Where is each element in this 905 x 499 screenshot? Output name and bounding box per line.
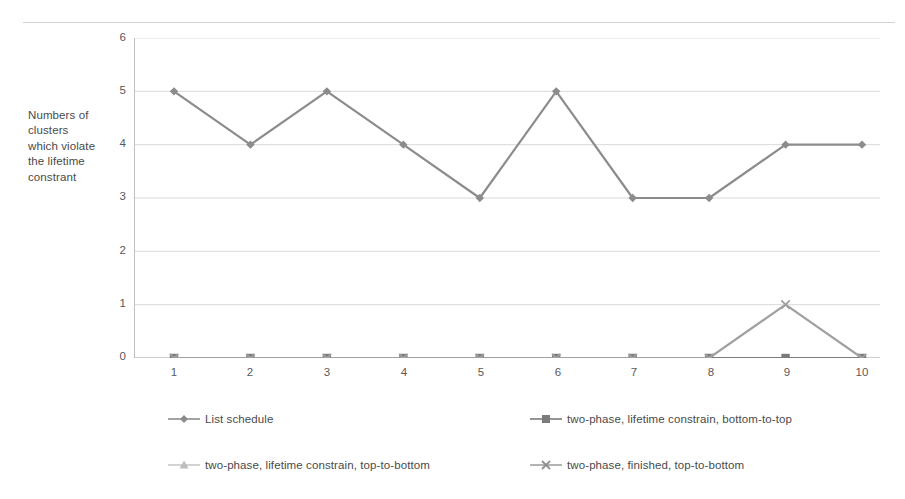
figure-top-rule: [23, 22, 895, 23]
legend-label-two-phase-finished-top-to-bottom: two-phase, finished, top-to-bottom: [567, 459, 744, 471]
data-point-marker: [858, 140, 866, 148]
square-marker-icon: [530, 412, 562, 426]
diamond-marker-icon: [168, 412, 200, 426]
x-tick-label-5: 5: [464, 366, 498, 378]
y-tick-label-6: 6: [100, 31, 126, 43]
chart-legend: List schedule two-phase, lifetime constr…: [0, 406, 905, 496]
legend-item-list-schedule[interactable]: List schedule: [168, 412, 273, 426]
y-tick-label-2: 2: [100, 244, 126, 256]
legend-label-two-phase-lifetime-top-to-bottom: two-phase, lifetime constrain, top-to-bo…: [205, 459, 430, 471]
triangle-marker-icon: [168, 458, 200, 472]
y-tick-label-4: 4: [100, 137, 126, 149]
x-tick-label-1: 1: [157, 366, 191, 378]
y-axis-label-line-1: Numbers of: [28, 108, 123, 123]
series-4: [170, 300, 866, 358]
x-tick-label-4: 4: [387, 366, 421, 378]
data-point-marker: [781, 354, 789, 358]
legend-label-two-phase-lifetime-bottom-to-top: two-phase, lifetime constrain, bottom-to…: [567, 413, 792, 425]
x-tick-label-8: 8: [694, 366, 728, 378]
y-tick-label-1: 1: [100, 297, 126, 309]
cross-marker-icon: [530, 458, 562, 472]
x-tick-label-2: 2: [233, 366, 267, 378]
y-tick-label-0: 0: [100, 350, 126, 362]
x-tick-label-6: 6: [541, 366, 575, 378]
y-tick-label-3: 3: [100, 190, 126, 202]
legend-item-two-phase-lifetime-bottom-to-top[interactable]: two-phase, lifetime constrain, bottom-to…: [530, 412, 792, 426]
plot-svg: [134, 38, 880, 358]
y-tick-label-5: 5: [100, 84, 126, 96]
y-axis-label-line-4: the lifetime: [28, 154, 123, 169]
x-tick-label-9: 9: [770, 366, 804, 378]
x-tick-label-3: 3: [310, 366, 344, 378]
chart-figure: Numbers of clusters which violate the li…: [0, 0, 905, 499]
legend-label-list-schedule: List schedule: [205, 413, 273, 425]
legend-item-two-phase-finished-top-to-bottom[interactable]: two-phase, finished, top-to-bottom: [530, 458, 744, 472]
x-tick-label-10: 10: [845, 366, 879, 378]
x-tick-label-7: 7: [617, 366, 651, 378]
legend-item-two-phase-lifetime-top-to-bottom[interactable]: two-phase, lifetime constrain, top-to-bo…: [168, 458, 430, 472]
plot-area: [134, 38, 880, 358]
y-axis-label-line-5: constrant: [28, 170, 123, 185]
